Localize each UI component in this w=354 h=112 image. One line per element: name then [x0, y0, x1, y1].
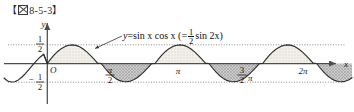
equation-rhs: sin x cos x	[133, 30, 176, 41]
equation-coefficient-fraction: 12	[188, 28, 194, 46]
y-tick-pos-denominator: 2	[38, 44, 43, 54]
x-tick-label-pi: π	[176, 66, 181, 76]
y-axis-label: y	[41, 19, 46, 29]
x-axis-label: x	[343, 59, 348, 69]
equation-annotation: y=sin x cos x (=12sin 2x)	[123, 28, 223, 46]
figure-container: 【8-5-3】	[0, 0, 354, 112]
y-tick-neg-sign: −	[28, 74, 33, 84]
y-tick-label-negative-half: − 1 2	[28, 72, 44, 92]
y-tick-neg-denominator: 2	[38, 82, 43, 92]
equation-tail: sin 2x	[195, 30, 219, 41]
equation-paren-equals: =	[181, 30, 187, 41]
annotation-leader-line	[95, 36, 122, 49]
origin-label: O	[50, 65, 57, 75]
y-tick-neg-numerator: 1	[38, 72, 43, 82]
x-tick-pi2-denominator: 2	[108, 75, 113, 85]
equation-coefficient-numerator: 1	[188, 28, 194, 37]
y-tick-label-positive-half: 1 2	[36, 34, 44, 54]
x-tick-3pi2-suffix: π	[248, 73, 253, 83]
x-tick-3pi2-denominator: 2	[240, 75, 245, 85]
y-tick-pos-numerator: 1	[38, 34, 43, 44]
function-plot: y x O 1 2 − 1 2 π 2 π 3 2 π 2π	[0, 0, 354, 112]
equation-coefficient-denominator: 2	[188, 36, 194, 46]
equation-paren-close: )	[220, 30, 223, 41]
x-tick-label-2pi: 2π	[298, 66, 308, 76]
x-tick-3pi2-numerator: 3	[240, 65, 245, 75]
x-tick-pi2-numerator: π	[108, 65, 113, 75]
